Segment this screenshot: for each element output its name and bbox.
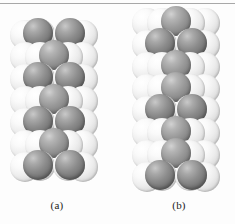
sphere-front-right [177,160,207,190]
figure-container: (a) (b) [0,0,235,224]
sphere-stack-a [2,0,112,196]
sphere-stack-b [124,0,234,196]
sphere-front-left [23,150,53,180]
panel-a: (a) [2,0,112,224]
sphere-front-right [55,150,85,180]
caption-b: (b) [124,199,234,211]
caption-a: (a) [2,199,112,211]
panel-b: (b) [124,0,234,224]
sphere-front-left [145,160,175,190]
